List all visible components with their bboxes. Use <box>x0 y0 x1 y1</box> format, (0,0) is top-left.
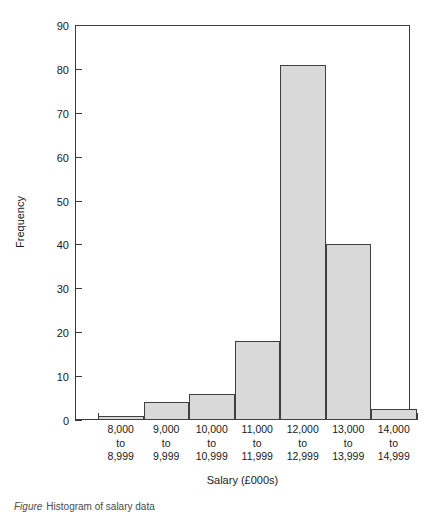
y-axis-tick: 50 <box>75 201 82 202</box>
x-axis-tick-label-line: 12,000 <box>280 423 326 437</box>
histogram-bar <box>189 394 235 420</box>
x-axis-tick-label-line: 8,999 <box>98 450 144 464</box>
y-axis-tick-label: 80 <box>57 64 69 75</box>
plot-area: 0102030405060708090 <box>75 25 410 420</box>
y-axis-tick: 80 <box>75 69 82 70</box>
x-axis-tick-label-line: 14,999 <box>371 450 417 464</box>
y-axis-tick: 70 <box>75 113 82 114</box>
y-axis-tick: 40 <box>75 244 82 245</box>
x-axis-tick-label-line: 13,999 <box>326 450 372 464</box>
x-axis-tick-labels: 8,000to8,9999,000to9,99910,000to10,99911… <box>75 423 410 469</box>
y-axis-tick-label: 50 <box>57 196 69 207</box>
histogram-bar <box>98 416 144 420</box>
x-axis-tick-label: 12,000to12,999 <box>280 423 326 464</box>
x-axis-tick-label-line: to <box>189 437 235 451</box>
y-axis-tick-label: 70 <box>57 108 69 119</box>
x-axis-tick-label-line: to <box>371 437 417 451</box>
y-axis-tick: 30 <box>75 288 82 289</box>
y-axis-tick-label: 20 <box>57 328 69 339</box>
x-axis-tick-label-line: 8,000 <box>98 423 144 437</box>
x-axis-tick-label: 8,000to8,999 <box>98 423 144 464</box>
x-axis-tick-label-line: 11,000 <box>235 423 281 437</box>
figure-caption-label: Figure <box>14 501 42 512</box>
x-axis-tick-label-line: 9,000 <box>144 423 190 437</box>
y-axis-title: Frequency <box>14 196 26 248</box>
y-axis-tick-label: 0 <box>63 416 69 427</box>
y-axis-tick: 10 <box>75 376 82 377</box>
x-axis-tick-label: 9,000to9,999 <box>144 423 190 464</box>
x-axis-tick-label-line: 9,999 <box>144 450 190 464</box>
x-axis-tick-label-line: to <box>235 437 281 451</box>
x-axis-tick-label-line: 12,999 <box>280 450 326 464</box>
histogram-bar <box>144 402 190 420</box>
y-axis-tick: 90 <box>75 25 82 26</box>
x-axis-tick-label-line: 10,999 <box>189 450 235 464</box>
x-axis-tick-label: 11,000to11,999 <box>235 423 281 464</box>
x-axis-tick-label-line: to <box>326 437 372 451</box>
y-axis-tick-label: 10 <box>57 372 69 383</box>
y-axis-tick: 60 <box>75 157 82 158</box>
y-axis-tick-label: 90 <box>57 21 69 32</box>
x-axis-tick-label-line: to <box>144 437 190 451</box>
x-axis-tick-label: 13,000to13,999 <box>326 423 372 464</box>
histogram-bar <box>280 65 326 421</box>
x-axis-tick-label: 14,000to14,999 <box>371 423 417 464</box>
x-axis-tick-label-line: 14,000 <box>371 423 417 437</box>
y-axis-tick-label: 40 <box>57 240 69 251</box>
x-axis-tick <box>417 413 418 420</box>
figure-caption-text: Histogram of salary data <box>46 501 154 512</box>
y-axis-tick: 20 <box>75 332 82 333</box>
x-axis-tick-label-line: 10,000 <box>189 423 235 437</box>
y-axis-tick-label: 30 <box>57 284 69 295</box>
x-axis-tick-label-line: to <box>280 437 326 451</box>
histogram-bar <box>235 341 281 420</box>
y-axis-tick-label: 60 <box>57 152 69 163</box>
figure-caption: FigureHistogram of salary data <box>14 501 155 512</box>
x-axis-tick-label: 10,000to10,999 <box>189 423 235 464</box>
x-axis-title: Salary (£000s) <box>75 474 410 486</box>
x-axis-tick-label-line: 11,999 <box>235 450 281 464</box>
y-axis-tick: 0 <box>75 420 82 421</box>
x-axis-tick-label-line: 13,000 <box>326 423 372 437</box>
histogram-bar <box>371 409 417 420</box>
x-axis-tick-label-line: to <box>98 437 144 451</box>
histogram-bar <box>326 244 372 420</box>
